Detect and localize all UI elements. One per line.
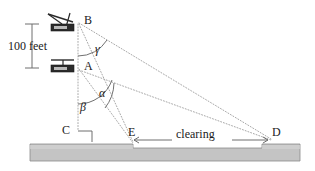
ground-terrain [30,144,300,161]
right-angle-corner [78,131,92,142]
point-label-E: E [128,126,135,138]
theodolite-b-sight-arm [48,14,62,24]
dimension-label-100-feet: 100 feet [8,40,47,52]
point-label-C: C [62,124,70,136]
sight-line-B-D [79,23,271,139]
sight-line-A-D [79,70,271,140]
angle-label-gamma: γ [95,43,100,55]
point-label-A: A [84,60,93,72]
right-angle-mark-icon [78,131,92,142]
angle-label-alpha: α [99,87,105,99]
theodolite-b-lens-band [54,26,67,29]
point-label-B: B [84,14,92,26]
angle-label-beta: β [80,101,86,113]
clearing-label: clearing [176,128,215,140]
theodolite-icon-b [48,13,74,31]
theodolite-icon-a [51,60,74,72]
angle-arc-alpha [105,83,114,108]
diagram-canvas [0,0,315,171]
geometry-diagram-figure: B A C E D γ α β 100 feet clearing [0,0,315,171]
theodolite-a-lens-band [54,67,67,70]
point-label-D: D [272,126,281,138]
